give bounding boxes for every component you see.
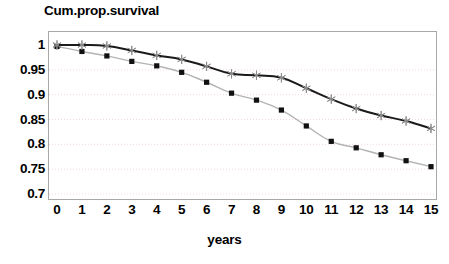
y-axis-tick-labels: 10.950.90.850.80.750.7 <box>0 0 45 264</box>
x-tick-label: 1 <box>70 203 94 217</box>
series-line-lower-curve <box>57 46 431 166</box>
data-point-marker-square <box>428 164 433 169</box>
x-tick-label: 12 <box>344 203 368 217</box>
gridlines <box>49 70 436 194</box>
data-point-marker-square <box>179 70 184 75</box>
x-tick-label: 6 <box>195 203 219 217</box>
x-axis-tick-labels: 0123456789101112131415 <box>48 203 437 223</box>
x-tick-label: 0 <box>45 203 69 217</box>
data-point-marker-square <box>79 49 84 54</box>
data-series-group <box>53 40 435 169</box>
y-tick-label: 0.7 <box>1 187 45 201</box>
chart-container: Cum.prop.survival 10.950.90.850.80.750.7… <box>0 0 449 264</box>
x-tick-label: 7 <box>220 203 244 217</box>
y-tick-label: 1 <box>1 38 45 52</box>
y-tick-label: 0.95 <box>1 63 45 77</box>
data-point-marker-square <box>204 80 209 85</box>
y-tick-label: 0.9 <box>1 88 45 102</box>
data-point-marker-square <box>379 152 384 157</box>
x-axis-title: years <box>0 232 449 247</box>
x-tick-label: 11 <box>319 203 343 217</box>
data-point-marker-square <box>104 53 109 58</box>
chart-title: Cum.prop.survival <box>44 3 159 18</box>
x-tick-label: 3 <box>120 203 144 217</box>
y-tick-label: 0.75 <box>1 162 45 176</box>
x-tick-label: 13 <box>369 203 393 217</box>
x-tick-label: 14 <box>394 203 418 217</box>
data-point-marker-square <box>279 107 284 112</box>
x-tick-label: 15 <box>419 203 443 217</box>
plot-area <box>48 31 437 200</box>
data-point-marker-square <box>129 59 134 64</box>
data-point-marker-star <box>302 84 310 93</box>
y-tick-label: 0.8 <box>1 137 45 151</box>
x-tick-label: 5 <box>170 203 194 217</box>
data-point-marker-star <box>327 95 335 104</box>
x-tick-label: 10 <box>294 203 318 217</box>
x-tick-label: 9 <box>269 203 293 217</box>
data-point-marker-square <box>304 123 309 128</box>
data-point-marker-square <box>403 158 408 163</box>
data-point-marker-square <box>354 145 359 150</box>
data-point-marker-square <box>229 91 234 96</box>
data-point-marker-square <box>254 98 259 103</box>
data-point-marker-square <box>154 63 159 68</box>
y-tick-label: 0.85 <box>1 113 45 127</box>
x-tick-label: 4 <box>145 203 169 217</box>
x-tick-label: 8 <box>244 203 268 217</box>
x-tick-label: 2 <box>95 203 119 217</box>
data-point-marker-square <box>329 139 334 144</box>
